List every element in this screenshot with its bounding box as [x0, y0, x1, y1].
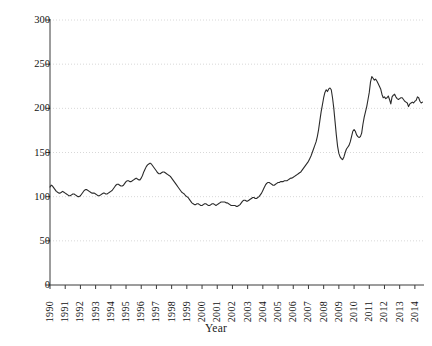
- x-tick-label: 2001: [212, 301, 222, 322]
- y-tick-label: 50: [24, 236, 50, 247]
- x-tick-label: 2009: [334, 301, 344, 322]
- x-tick-label: 1991: [60, 301, 70, 322]
- x-tick-label: 2011: [364, 301, 374, 322]
- x-tick-label: 2007: [303, 301, 313, 322]
- x-tick-label: 1990: [45, 301, 55, 322]
- x-tick-label: 1999: [182, 301, 192, 322]
- x-axis-title: Year: [0, 322, 432, 334]
- chart-container: FAO food price index 050100150200250300 …: [0, 0, 432, 346]
- y-tick-label: 150: [24, 147, 50, 158]
- x-tick-label: 1998: [167, 301, 177, 322]
- y-tick-label: 200: [24, 103, 50, 114]
- x-tick-label: 1996: [136, 301, 146, 322]
- x-tick-label: 1992: [75, 301, 85, 322]
- x-tick-label: 2002: [227, 301, 237, 322]
- y-tick-label: 250: [24, 59, 50, 70]
- data-line-fao-food-price-index: [50, 77, 422, 207]
- x-tick-label: 2010: [349, 301, 359, 322]
- x-tick-label: 2000: [197, 301, 207, 322]
- x-tick-label: 1994: [106, 301, 116, 322]
- x-tick-label: 2006: [288, 301, 298, 322]
- x-tick-label: 1997: [151, 301, 161, 322]
- x-tick-label: 2003: [243, 301, 253, 322]
- x-tick-label: 2013: [395, 301, 405, 322]
- x-tick-label: 2012: [379, 301, 389, 322]
- y-tick-label: 100: [24, 191, 50, 202]
- x-tick-label: 2005: [273, 301, 283, 322]
- gridlines: [50, 20, 424, 241]
- x-axis-tick-labels: 1990199119921993199419951996199719981999…: [0, 288, 432, 322]
- x-tick-label: 2004: [258, 301, 268, 322]
- x-tick-label: 2014: [410, 301, 420, 322]
- x-tick-label: 1993: [91, 301, 101, 322]
- x-tick-label: 1995: [121, 301, 131, 322]
- x-tick-label: 2008: [319, 301, 329, 322]
- y-tick-label: 300: [24, 15, 50, 26]
